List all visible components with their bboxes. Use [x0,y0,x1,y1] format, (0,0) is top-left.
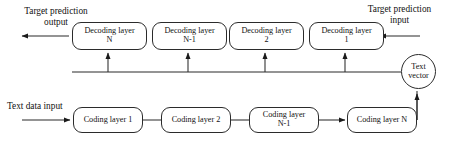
decoding-layer-n-line2: N [107,36,113,45]
target-prediction-output-label: Target prediction output [6,6,106,28]
text-vector-node[interactable]: Text vector [401,54,436,89]
coding-layer-2-line1: Coding layer 2 [172,116,221,125]
text-data-input-label: Text data input [7,101,63,112]
coding-layer-2[interactable]: Coding layer 2 [161,107,231,133]
coding-layer-n[interactable]: Coding layer N [347,107,417,133]
text-vector-line2: vector [408,72,428,81]
decoding-layer-2[interactable]: Decoding layer 2 [229,22,304,50]
coding-layer-n-line1: Coding layer N [357,116,407,125]
coding-layer-n-1[interactable]: Coding layer N-1 [249,107,319,133]
coding-layer-1-line1: Coding layer 1 [84,116,133,125]
diagram-canvas: Decoding layer N Decoding layer N-1 Deco… [0,0,449,144]
decoding-layer-n-1-line2: N-1 [183,36,196,45]
decoding-layer-1-line2: 1 [344,36,348,45]
target-prediction-input-label: Target prediction input [352,4,447,26]
decoding-layer-n-1[interactable]: Decoding layer N-1 [152,22,227,50]
coding-layer-1[interactable]: Coding layer 1 [73,107,143,133]
coding-layer-n-1-line2: N-1 [278,120,291,129]
decoding-layer-1[interactable]: Decoding layer 1 [309,22,384,50]
decoding-layer-2-line2: 2 [264,36,268,45]
